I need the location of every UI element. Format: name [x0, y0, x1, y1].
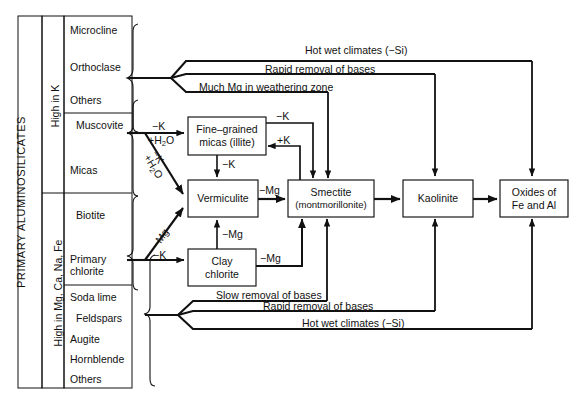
primary-aluminosilicates-label: PRIMARY ALUMINOSILICATES: [15, 37, 27, 367]
mineral-feldspars: Feldspars: [76, 312, 122, 324]
box-clay-chlorite: Clay chlorite: [188, 249, 256, 286]
mineral-biotite: Biotite: [76, 209, 105, 221]
mineral-hornblende: Hornblende: [70, 353, 124, 365]
box-smectite: Smectite (montmorillonite): [288, 180, 374, 217]
mineral-primary-chlorite: Primary chlorite: [70, 253, 106, 277]
group-high-in-k-label: High in K: [49, 51, 61, 161]
box-smectite-line2: (montmorillonite): [295, 199, 366, 211]
box-vermiculite: Vermiculite: [188, 180, 258, 217]
label-minus-mg-vermiculite-to-smectite: −Mg: [259, 184, 280, 196]
mineral-soda-lime: Soda lime: [70, 291, 117, 303]
label-minus-mg-clay-to-vermiculite: −Mg: [222, 228, 243, 240]
mineral-microcline: Microcline: [70, 24, 117, 36]
label-top-rapid-removal: Rapid removal of bases: [265, 63, 375, 75]
box-kaolinite: Kaolinite: [403, 180, 473, 217]
label-top-hot-wet-climates: Hot wet climates (−Si): [305, 44, 407, 56]
label-bottom-hot-wet-climates: Hot wet climates (−Si): [302, 317, 404, 329]
box-oxides-fe-al: Oxides of Fe and Al: [500, 180, 568, 217]
mineral-micas: Micas: [70, 164, 97, 176]
box-oxides-line2: Fe and Al: [512, 199, 556, 212]
box-oxides-line1: Oxides of: [512, 186, 556, 199]
label-minus-k-to-clay-chlorite: −K: [153, 249, 166, 261]
label-plus-k-smectite-to-illite: +K: [277, 134, 290, 146]
label-minus-mg-clay-to-smectite: −Mg: [260, 252, 281, 264]
label-minus-k-to-illite: −K: [152, 120, 165, 132]
mineral-others-k: Others: [70, 94, 102, 106]
group-high-in-mg-label: High in Mg, Ca, Na, Fe: [52, 213, 64, 373]
box-illite: Fine–grained micas (illite): [188, 117, 266, 155]
label-minus-k-illite-to-smectite: −K: [276, 110, 289, 122]
label-bottom-rapid-removal: Rapid removal of bases: [263, 300, 373, 312]
mineral-augite: Augite: [70, 333, 100, 345]
box-smectite-line1: Smectite: [311, 186, 352, 199]
box-illite-line2: micas (illite): [199, 136, 254, 149]
box-clay-chlorite-line2: chlorite: [205, 268, 239, 281]
diagram-canvas: PRIMARY ALUMINOSILICATES High in K High …: [0, 0, 581, 399]
label-much-mg-weathering-zone: Much Mg in weathering zone: [199, 81, 333, 93]
mineral-muscovite: Muscovite: [76, 119, 123, 131]
label-plus-h2o-to-illite: +H2O: [148, 134, 174, 149]
mineral-others-mg: Others: [70, 373, 102, 385]
mineral-orthoclase: Orthoclase: [70, 61, 121, 73]
label-minus-k-illite-to-vermiculite: −K: [222, 158, 235, 170]
box-clay-chlorite-line1: Clay: [211, 255, 232, 268]
box-illite-line1: Fine–grained: [196, 123, 257, 136]
